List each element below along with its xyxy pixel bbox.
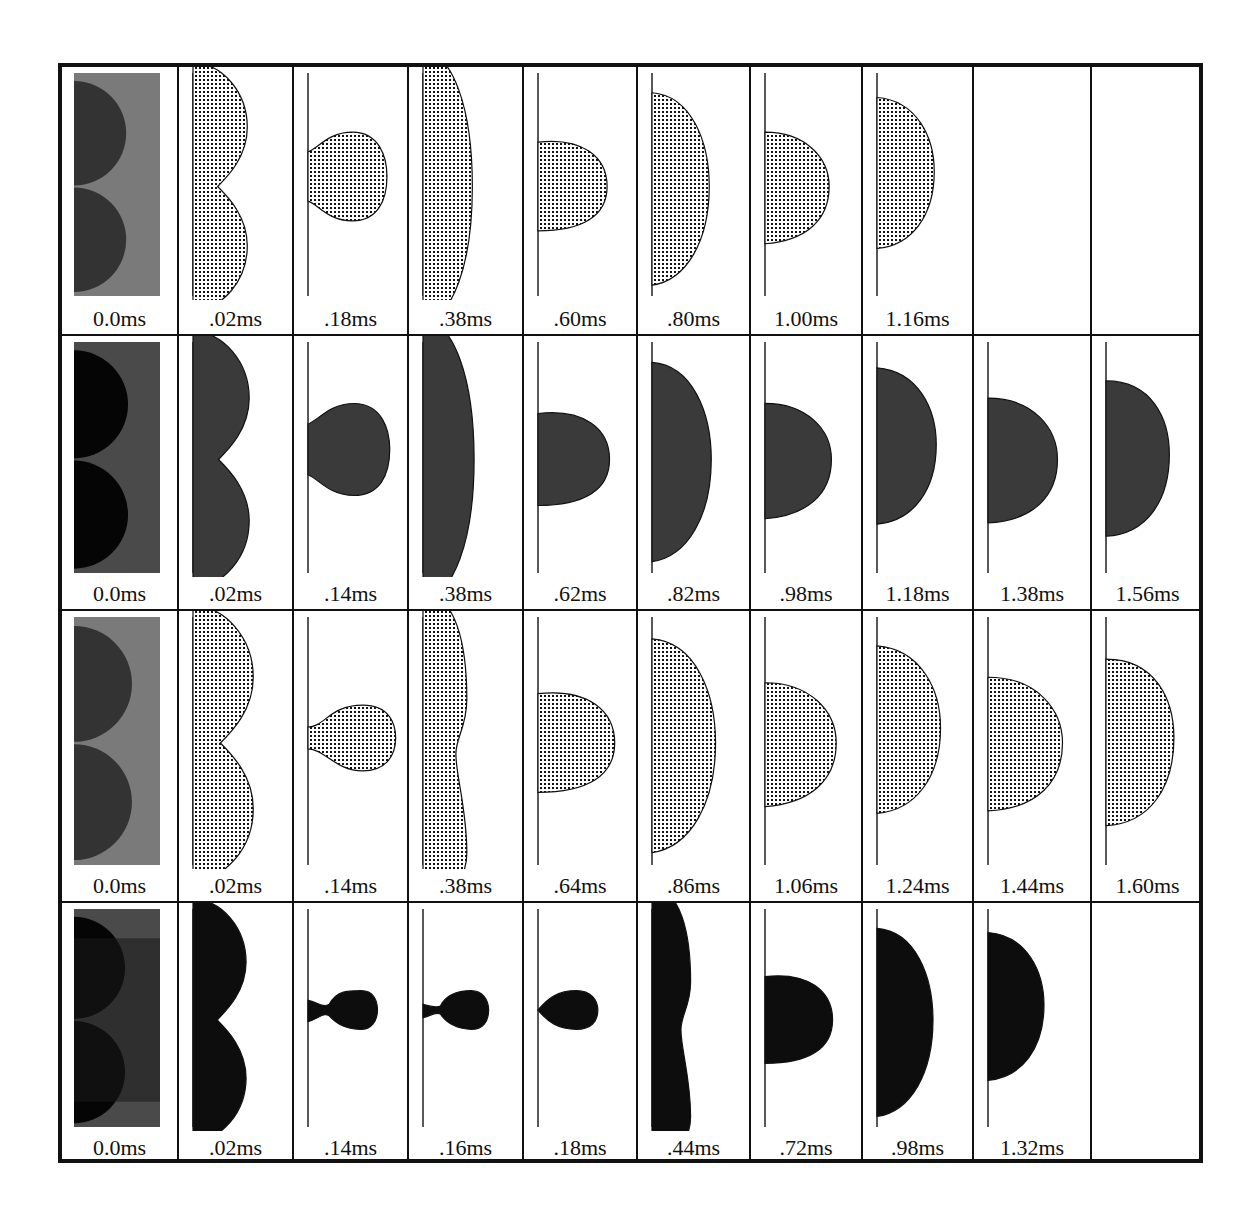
simulation-frame: .62ms [522,336,636,609]
simulation-frame: .14ms [292,611,407,901]
time-label: .16ms [409,1135,522,1161]
drop-shape-image [179,611,294,869]
time-label: 1.60ms [1092,873,1203,899]
simulation-frame: 1.16ms [861,67,972,334]
time-label: .02ms [179,306,292,332]
drop-shape-image [751,67,863,300]
time-label: .64ms [524,873,636,899]
time-label: .18ms [294,306,407,332]
drop-shape-image [179,903,294,1131]
drop-shape-image [1092,611,1205,869]
time-label: 1.06ms [751,873,861,899]
simulation-frame: .80ms [636,67,749,334]
drop-shape-image [524,903,638,1131]
drop-shape-image [863,336,974,577]
drop-shape-image [863,903,974,1131]
time-label: 0.0ms [62,306,177,332]
series-row: 0.0ms.02ms.14ms.38ms.62ms.82ms.98ms1.18m… [62,334,1199,609]
drop-shape-image [409,611,524,869]
time-label: .98ms [751,581,861,607]
simulation-frame: 0.0ms [62,903,177,1163]
drop-shape-image [409,903,524,1131]
drop-shape-image [751,336,863,577]
time-label: 0.0ms [62,873,177,899]
simulation-frame: .14ms [292,903,407,1163]
drop-shape-image [524,336,638,577]
simulation-frame: 0.0ms [62,336,177,609]
time-label: .14ms [294,581,407,607]
simulation-frame: .38ms [407,67,522,334]
simulation-frame: .72ms [749,903,861,1163]
simulation-frame: 1.00ms [749,67,861,334]
series-row: 0.0ms.02ms.14ms.38ms.64ms.86ms1.06ms1.24… [62,609,1199,901]
drop-shape-image [294,903,409,1131]
time-label: 1.32ms [974,1135,1090,1161]
drop-shape-image [751,611,863,869]
time-label: .44ms [638,1135,749,1161]
simulation-frame: .02ms [177,903,292,1163]
simulation-frame: .02ms [177,611,292,901]
drop-shape-image [524,611,638,869]
drop-shape-image [751,903,863,1131]
time-label: 1.44ms [974,873,1090,899]
drop-shape-image [62,903,177,1131]
time-label: .02ms [179,873,292,899]
drop-shape-image [638,611,751,869]
simulation-frame: .44ms [636,903,749,1163]
simulation-frame: 0.0ms [62,611,177,901]
drop-shape-image [294,67,409,300]
drop-shape-image [974,611,1092,869]
series-row: 0.0ms.02ms.14ms.16ms.18ms.44ms.72ms.98ms… [62,901,1199,1163]
empty-frame [972,67,1090,334]
time-label: .86ms [638,873,749,899]
time-label: 0.0ms [62,1135,177,1161]
drop-shape-image [638,336,751,577]
time-label: .14ms [294,1135,407,1161]
drop-shape-image [524,67,638,300]
simulation-frame: .98ms [861,903,972,1163]
time-label: .38ms [409,306,522,332]
series-row: 0.0ms.02ms.18ms.38ms.60ms.80ms1.00ms1.16… [62,67,1199,334]
drop-shape-image [294,336,409,577]
time-label: 1.38ms [974,581,1090,607]
drop-shape-image [294,611,409,869]
time-label: 1.24ms [863,873,972,899]
time-label: .80ms [638,306,749,332]
time-label: .38ms [409,873,522,899]
drop-shape-image [974,336,1092,577]
drop-shape-image [62,67,177,300]
simulation-frame: .82ms [636,336,749,609]
drop-shape-image [62,611,177,869]
time-label: .98ms [863,1135,972,1161]
simulation-frame: 1.60ms [1090,611,1203,901]
simulation-frame: .38ms [407,336,522,609]
figure-grid: 0.0ms.02ms.18ms.38ms.60ms.80ms1.00ms1.16… [58,63,1203,1163]
time-label: .72ms [751,1135,861,1161]
time-label: .02ms [179,1135,292,1161]
drop-shape-image [179,67,294,300]
simulation-frame: .60ms [522,67,636,334]
simulation-frame: 0.0ms [62,67,177,334]
simulation-frame: .18ms [292,67,407,334]
drop-shape-image [62,336,177,577]
time-label: .14ms [294,873,407,899]
time-label: .60ms [524,306,636,332]
drop-shape-image [974,903,1092,1131]
time-label: .02ms [179,581,292,607]
time-label: .62ms [524,581,636,607]
simulation-frame: 1.06ms [749,611,861,901]
simulation-frame: .38ms [407,611,522,901]
time-label: .38ms [409,581,522,607]
drop-shape-image [409,336,524,577]
drop-shape-image [1092,336,1205,577]
time-label: 1.56ms [1092,581,1203,607]
simulation-frame: 1.44ms [972,611,1090,901]
drop-shape-image [863,611,974,869]
simulation-frame: 1.32ms [972,903,1090,1163]
simulation-frame: .18ms [522,903,636,1163]
simulation-frame: 1.18ms [861,336,972,609]
empty-frame [1090,903,1203,1163]
drop-shape-image [409,67,524,300]
drop-shape-image [638,67,751,300]
simulation-frame: 1.24ms [861,611,972,901]
